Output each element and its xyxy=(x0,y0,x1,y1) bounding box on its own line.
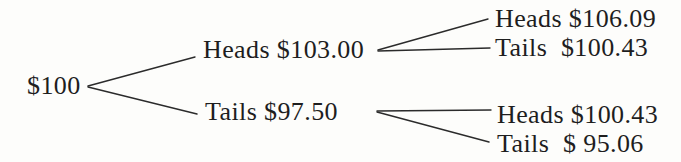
node-tails: Tails $97.50 xyxy=(205,99,338,125)
branch-tails-to-tails-heads xyxy=(377,110,491,111)
binomial-tree-diagram: $100 Heads $103.00 Tails $97.50 Heads $1… xyxy=(0,0,681,162)
branch-heads-to-heads-tails xyxy=(378,48,490,51)
node-heads: Heads $103.00 xyxy=(203,37,364,63)
node-tails-heads: Heads $100.43 xyxy=(497,102,658,128)
branch-root-to-tails xyxy=(88,87,197,114)
branch-tails-to-tails-tails xyxy=(377,112,489,142)
branch-heads-to-heads-heads xyxy=(378,19,488,50)
node-root: $100 xyxy=(27,73,81,99)
branch-root-to-heads xyxy=(88,57,195,86)
node-tails-tails: Tails $ 95.06 xyxy=(497,131,644,157)
node-heads-heads: Heads $106.09 xyxy=(495,6,656,32)
node-heads-tails: Tails $100.43 xyxy=(495,35,648,61)
